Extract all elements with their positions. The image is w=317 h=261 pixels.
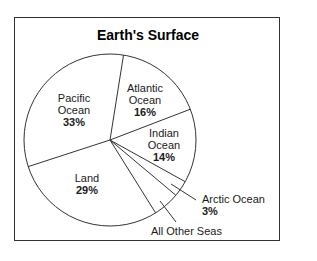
label-atlantic-line2: Ocean	[129, 94, 161, 106]
value-indian: 14%	[153, 151, 175, 163]
pie-chart: Earth's Surface Pacific Ocean 33% Atlant…	[0, 0, 317, 261]
label-land: Land	[75, 172, 99, 184]
value-atlantic: 16%	[134, 106, 156, 118]
value-pacific: 33%	[63, 116, 85, 128]
label-arctic: Arctic Ocean	[202, 193, 265, 205]
label-pacific-line1: Pacific	[58, 92, 91, 104]
slice-arctic: Arctic Ocean 3%	[202, 193, 265, 217]
label-pacific-line2: Ocean	[58, 104, 90, 116]
value-arctic: 3%	[202, 205, 218, 217]
label-atlantic-line1: Atlantic	[127, 82, 164, 94]
label-indian-line1: Indian	[149, 127, 179, 139]
value-land: 29%	[76, 184, 98, 196]
label-indian-line2: Ocean	[148, 139, 180, 151]
label-other-seas: All Other Seas	[151, 225, 222, 237]
slice-other-seas: All Other Seas	[151, 225, 222, 237]
slice-land: Land 29%	[75, 172, 99, 196]
chart-title: Earth's Surface	[97, 27, 199, 43]
